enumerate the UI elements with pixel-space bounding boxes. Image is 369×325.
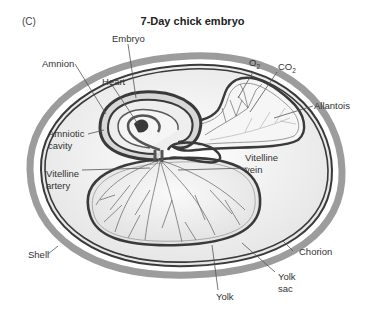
label-amniotic-cavity: Amniotic	[48, 128, 85, 139]
label-embryo: Embryo	[112, 33, 145, 44]
label-vitelline-artery-2: artery	[46, 180, 71, 191]
label-o2: O2	[249, 57, 260, 70]
yolk-sac	[88, 158, 260, 245]
label-amniotic-cavity-2: cavity	[48, 140, 73, 151]
label-vitelline-vein: Vitelline	[245, 152, 278, 163]
label-chorion: Chorion	[299, 246, 332, 257]
label-yolk-sac-2: sac	[278, 283, 293, 294]
label-yolk: Yolk	[216, 291, 234, 302]
label-yolk-sac: Yolk	[278, 271, 296, 282]
label-allantois: Allantois	[314, 100, 350, 111]
label-shell: Shell	[28, 249, 49, 260]
label-amnion: Amnion	[42, 58, 74, 69]
label-vitelline-artery: Vitelline	[46, 168, 79, 179]
label-vitelline-vein-2: vein	[245, 164, 262, 175]
chick-embryo-diagram: Embryo Amnion Heart Amniotic cavity Vite…	[0, 0, 369, 325]
label-heart: Heart	[102, 76, 126, 87]
